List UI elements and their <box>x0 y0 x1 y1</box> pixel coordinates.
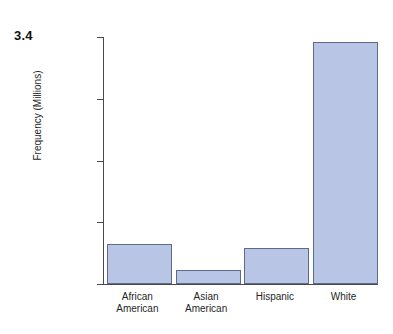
bar <box>176 270 241 284</box>
x-axis-category-label-line: Asian <box>172 291 241 303</box>
x-axis-line <box>103 284 378 285</box>
y-axis-line <box>103 37 104 284</box>
bar <box>313 42 378 284</box>
x-axis-category-label: AfricanAmerican <box>103 291 172 315</box>
y-axis-title: Frequency (Millions) <box>32 31 43 201</box>
x-axis-category-label-line: American <box>103 303 172 315</box>
x-axis-category-label-line: African <box>103 291 172 303</box>
y-axis-tick-mark <box>97 99 103 100</box>
y-axis-tick-mark <box>97 161 103 162</box>
y-axis-tick-mark <box>97 222 103 223</box>
x-axis-category-labels: AfricanAmericanAsianAmericanHispanicWhit… <box>103 291 378 331</box>
bar <box>244 248 309 284</box>
x-axis-category-label: AsianAmerican <box>172 291 241 315</box>
x-axis-category-label-line: White <box>309 291 378 303</box>
y-axis-tick-mark <box>97 37 103 38</box>
x-axis-category-label-line: Hispanic <box>241 291 310 303</box>
y-axis-tick-mark <box>97 284 103 285</box>
plot-area <box>103 30 378 284</box>
figure-number-label: 3.4 <box>14 28 33 43</box>
x-axis-category-label: White <box>309 291 378 303</box>
figure-container: 3.4 Frequency (Millions) 050100150200 Af… <box>0 0 393 334</box>
x-axis-category-label: Hispanic <box>241 291 310 303</box>
bar <box>107 244 172 284</box>
x-axis-category-label-line: American <box>172 303 241 315</box>
